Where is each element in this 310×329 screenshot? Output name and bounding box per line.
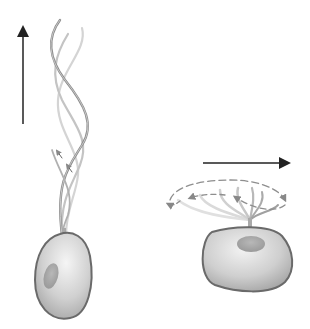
flagella-diagram xyxy=(0,0,310,329)
nucleus xyxy=(237,236,265,252)
right-panel xyxy=(168,163,292,291)
helical-flagellum xyxy=(51,20,88,235)
rotary-flagellum xyxy=(168,180,285,220)
left-panel xyxy=(23,20,92,319)
cell-body-right xyxy=(203,218,293,291)
cell-body-left xyxy=(35,228,92,319)
